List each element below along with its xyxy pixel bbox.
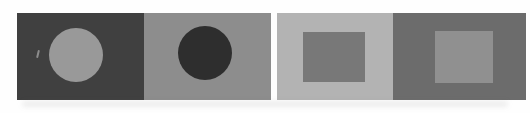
gray-square-on-dark (435, 31, 493, 83)
light-gray-circle (49, 28, 103, 82)
light-panel-with-dark-circle (144, 13, 271, 100)
scan-shadow-artifact (22, 101, 508, 107)
scan-scratch-artifact (36, 50, 40, 58)
dark-panel-with-gray-square (393, 13, 526, 100)
dark-panel-with-light-circle (17, 13, 144, 100)
dark-gray-circle (178, 26, 232, 80)
contrast-illusion-figure (0, 0, 530, 113)
light-panel-with-gray-square (277, 13, 393, 100)
gray-square-on-light (303, 32, 365, 82)
